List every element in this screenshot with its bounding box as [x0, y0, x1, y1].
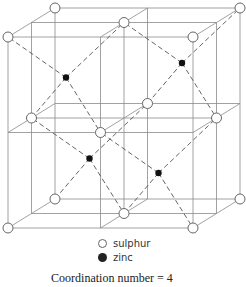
sulphur-atom: [3, 32, 13, 42]
zn-s-bond: [124, 173, 159, 214]
zn-s-bond: [8, 37, 66, 78]
zinc-atom: [63, 74, 69, 80]
zn-s-bond: [90, 159, 125, 214]
lattice-grid-lines: [8, 8, 240, 228]
sulphur-atom: [235, 3, 245, 13]
sulphur-atom: [212, 113, 222, 123]
sulphur-atom: [235, 194, 245, 204]
zn-s-bond: [124, 23, 182, 64]
zn-s-bond: [66, 78, 101, 133]
sulphur-atom: [50, 194, 60, 204]
legend-zinc-label: zinc: [113, 252, 133, 263]
zinc-atom: [179, 60, 185, 66]
sulphur-atom: [188, 223, 198, 233]
zinc-filled-circle-icon: [98, 253, 107, 262]
zinc-atom: [86, 155, 92, 161]
zn-s-bond: [182, 63, 217, 118]
sulphur-atom: [96, 128, 106, 138]
zinc-blende-lattice-diagram: [0, 0, 246, 240]
sulphur-atom: [27, 113, 37, 123]
legend-zinc: zinc: [98, 252, 133, 263]
zn-s-bond: [148, 63, 183, 104]
legend-sulphur-label: sulphur: [113, 238, 150, 249]
legend-sulphur: sulphur: [98, 238, 150, 249]
sulphur-atom: [50, 3, 60, 13]
figure-caption: Coordination number = 4: [0, 271, 224, 286]
sulphur-atom: [188, 32, 198, 42]
zn-s-bond: [32, 78, 67, 119]
zn-s-bond: [66, 23, 124, 78]
zinc-atom: [155, 170, 161, 176]
zn-s-bond: [55, 159, 90, 200]
sulphur-atom: [119, 209, 129, 219]
sulphur-atom: [143, 99, 153, 109]
sulphur-atom: [3, 223, 13, 233]
sulphur-atom: [119, 18, 129, 28]
zn-s-bond: [101, 133, 159, 174]
zn-s-bond: [32, 118, 90, 159]
sulphur-open-circle-icon: [98, 239, 107, 248]
zn-s-bond: [159, 118, 217, 173]
zn-s-bond: [159, 173, 194, 228]
